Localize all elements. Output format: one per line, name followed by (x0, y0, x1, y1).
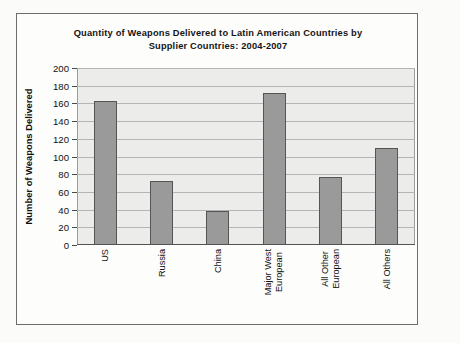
gridline (77, 227, 415, 228)
bar (206, 211, 229, 246)
chart-title-line-2: Supplier Countries: 2004-2007 (35, 40, 401, 53)
gridline (77, 192, 415, 193)
y-axis-tick (72, 210, 77, 211)
y-axis-tick-label: 60 (58, 186, 69, 197)
gridline (77, 68, 415, 69)
y-axis-tick-label: 160 (53, 98, 69, 109)
y-axis-tick-label: 180 (53, 80, 69, 91)
x-axis-category-label: Major West European (263, 249, 286, 341)
y-axis-tick-label: 100 (53, 151, 69, 162)
y-axis-title-text: Number of Weapons Delivered (24, 89, 35, 225)
plot-area-wrapper: 020406080100120140160180200 (77, 68, 415, 245)
y-axis-tick-label: 140 (53, 116, 69, 127)
y-axis-tick (72, 174, 77, 175)
bar (150, 181, 173, 245)
x-axis-category-label: US (94, 249, 117, 341)
x-axis-category-text: US (100, 249, 111, 262)
y-axis-tick (72, 139, 77, 140)
gridline (77, 103, 415, 104)
x-axis-category-text: Major West European (264, 249, 285, 295)
bar (319, 177, 342, 245)
gridline (77, 210, 415, 211)
x-axis-category-label: All Other European (319, 249, 342, 341)
y-axis-tick-label: 120 (53, 133, 69, 144)
x-axis-category-text: China (213, 249, 224, 273)
y-axis-tick (72, 103, 77, 104)
y-axis-tick (72, 121, 77, 122)
gridline (77, 174, 415, 175)
gridline (77, 121, 415, 122)
gridline (77, 157, 415, 158)
x-axis-category-label: China (206, 249, 229, 341)
gridline (77, 86, 415, 87)
x-axis-category-label: Russia (150, 249, 173, 341)
y-axis-tick (72, 192, 77, 193)
bar (263, 93, 286, 245)
scanned-page: Quantity of Weapons Delivered to Latin A… (0, 0, 460, 343)
x-axis-category-label: All Others (375, 249, 398, 341)
y-axis-tick (72, 227, 77, 228)
y-axis-tick (72, 86, 77, 87)
x-axis-category-text: All Others (382, 249, 393, 289)
y-axis-tick-label: 80 (58, 169, 69, 180)
y-axis-tick-label: 20 (58, 222, 69, 233)
bar (94, 101, 117, 245)
y-axis-tick (72, 245, 77, 246)
bar (375, 148, 398, 245)
chart-title: Quantity of Weapons Delivered to Latin A… (35, 27, 401, 52)
y-axis-title: Number of Weapons Delivered (22, 68, 36, 245)
y-axis-tick-label: 200 (53, 63, 69, 74)
gridline (77, 139, 415, 140)
y-axis-tick (72, 157, 77, 158)
y-axis-tick (72, 68, 77, 69)
x-axis-category-text: Russia (156, 249, 167, 277)
x-axis-baseline (77, 244, 415, 245)
chart-title-line-1: Quantity of Weapons Delivered to Latin A… (35, 27, 401, 40)
y-axis-tick-label: 0 (64, 240, 69, 251)
x-axis-category-text: All Other European (320, 249, 341, 289)
y-axis-tick-label: 40 (58, 204, 69, 215)
